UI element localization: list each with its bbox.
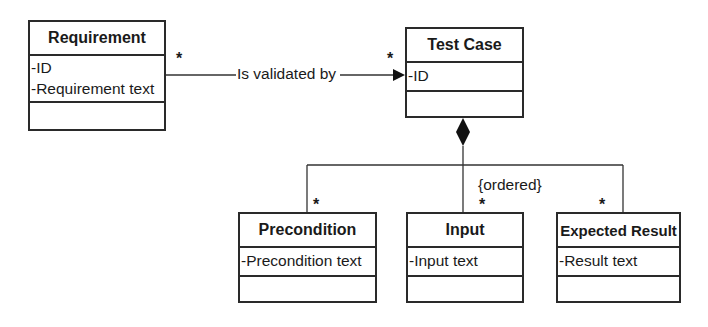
class-name: Input xyxy=(408,214,522,248)
class-input: Input -Input text xyxy=(406,212,524,303)
class-name: Requirement xyxy=(30,22,164,56)
attributes-compartment: -ID -Requirement text xyxy=(30,56,164,103)
attributes-compartment: -Input text xyxy=(408,248,522,277)
composition-diamond-icon xyxy=(456,118,470,146)
attributes-compartment: -Result text xyxy=(558,248,679,277)
attributes-compartment: -Precondition text xyxy=(240,248,375,277)
attribute: -Precondition text xyxy=(241,250,375,271)
attribute: -ID xyxy=(31,57,164,78)
attribute: -Requirement text xyxy=(31,78,164,99)
attribute: -ID xyxy=(408,65,522,86)
class-requirement: Requirement -ID -Requirement text xyxy=(28,20,166,131)
multiplicity-input: * xyxy=(479,196,485,214)
arrowhead-icon xyxy=(393,69,405,81)
multiplicity-precondition: * xyxy=(313,196,319,214)
multiplicity-test-case: * xyxy=(387,50,393,68)
ordered-constraint-label: {ordered} xyxy=(478,176,542,194)
attribute: -Result text xyxy=(559,250,679,271)
association-label: Is validated by xyxy=(237,65,336,83)
class-name: Test Case xyxy=(407,29,522,63)
class-precondition: Precondition -Precondition text xyxy=(238,212,377,303)
attribute: -Input text xyxy=(409,250,522,271)
multiplicity-requirement: * xyxy=(176,50,182,68)
class-name: Expected Result xyxy=(558,214,679,248)
class-test-case: Test Case -ID xyxy=(405,27,524,118)
class-name: Precondition xyxy=(240,214,375,248)
multiplicity-expected-result: * xyxy=(599,196,605,214)
attributes-compartment: -ID xyxy=(407,63,522,92)
class-expected-result: Expected Result -Result text xyxy=(556,212,681,303)
